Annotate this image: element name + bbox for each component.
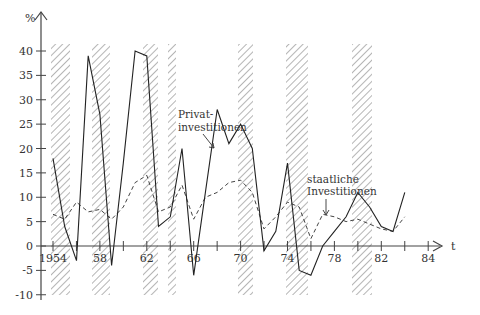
x-tick-label: 84 [421, 252, 435, 265]
x-tick-label: 62 [140, 252, 154, 265]
y-tick-label: -5 [22, 264, 33, 277]
x-tick-label: 74 [281, 252, 295, 265]
x-axis-label: t [451, 240, 456, 253]
svg-text:staatliche: staatliche [307, 173, 359, 185]
x-tick-label: 66 [187, 252, 201, 265]
y-tick-label: 0 [26, 240, 33, 253]
y-tick-label: 15 [19, 167, 33, 180]
x-tick-label: 70 [234, 252, 248, 265]
svg-text:Investitionen: Investitionen [307, 185, 377, 197]
svg-text:investitionen: investitionen [178, 121, 247, 133]
x-tick-label: 78 [327, 252, 341, 265]
y-tick-label: 30 [19, 94, 33, 107]
x-tick-label: 1954 [39, 252, 67, 265]
x-tick-label: 58 [93, 252, 107, 265]
y-tick-label: 35 [19, 69, 33, 82]
y-tick-label: 20 [19, 143, 33, 156]
y-tick-label: -10 [15, 289, 33, 302]
x-tick-label: 82 [374, 252, 388, 265]
y-tick-label: 40 [19, 45, 33, 58]
recession-band [168, 44, 176, 295]
y-tick-label: 5 [26, 216, 33, 229]
svg-text:Privat-: Privat- [178, 108, 214, 120]
y-tick-label: 25 [19, 118, 33, 131]
recession-band [352, 44, 372, 295]
investment-chart: % -10-50510152025303540 t 19545862667074… [0, 0, 480, 315]
y-axis-label: % [25, 12, 35, 25]
y-tick-label: 10 [19, 191, 33, 204]
